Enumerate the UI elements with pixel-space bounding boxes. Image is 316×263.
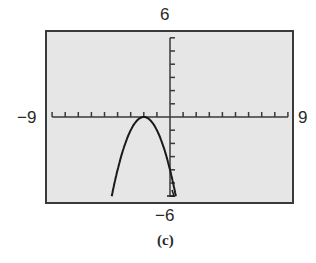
ymin-label: −6 [155, 207, 174, 224]
xmin-label: −9 [17, 109, 36, 126]
xmax-label: 9 [298, 109, 307, 126]
ymax-label: 6 [160, 6, 169, 23]
figure-caption: (c) [157, 232, 174, 249]
